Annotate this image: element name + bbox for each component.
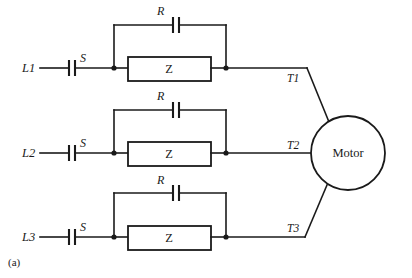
- figure-caption: (a): [8, 256, 21, 269]
- switch-label-s3: S: [80, 220, 86, 234]
- circuit-svg: L1 L2 L3 S S S R R R Z Z Z T1 T2 T3 Moto…: [0, 0, 412, 278]
- resistor-label-r2: R: [156, 89, 165, 103]
- impedance-label-z3: Z: [165, 231, 173, 245]
- circuit-diagram: L1 L2 L3 S S S R R R Z Z Z T1 T2 T3 Moto…: [0, 0, 412, 278]
- switch-label-s2: S: [80, 136, 86, 150]
- motor-label: Motor: [332, 146, 364, 160]
- supply-label-l3: L3: [21, 230, 35, 244]
- switch-label-s1: S: [80, 51, 86, 65]
- supply-label-l2: L2: [21, 146, 35, 160]
- terminal-label-t3: T3: [287, 222, 299, 234]
- supply-label-l1: L1: [21, 61, 35, 75]
- resistor-label-r3: R: [156, 173, 165, 187]
- terminal-label-t1: T1: [287, 72, 299, 84]
- terminal-label-t2: T2: [287, 139, 299, 151]
- impedance-label-z2: Z: [165, 147, 173, 161]
- resistor-label-r1: R: [156, 4, 165, 18]
- impedance-label-z1: Z: [165, 62, 173, 76]
